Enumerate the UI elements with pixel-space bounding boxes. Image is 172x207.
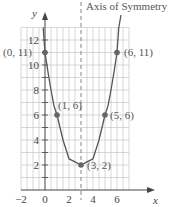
point-6-11 bbox=[114, 50, 120, 56]
label-point-6-11: (6, 11) bbox=[124, 46, 153, 59]
x-tick-0: 0 bbox=[42, 193, 48, 205]
y-tick-2: 2 bbox=[34, 159, 40, 171]
label-point-5-6: (5, 6) bbox=[110, 109, 134, 122]
y-tick-12: 12 bbox=[28, 34, 39, 46]
x-tick-6: 6 bbox=[114, 193, 120, 205]
point-3-2 bbox=[78, 162, 84, 168]
y-tick-10: 10 bbox=[28, 59, 40, 71]
x-axis bbox=[21, 187, 155, 193]
point-0-11 bbox=[42, 50, 48, 56]
label-point-0-11: (0, 11) bbox=[3, 46, 32, 59]
y-axis bbox=[42, 12, 48, 190]
y-tick-6: 6 bbox=[34, 109, 40, 121]
y-tick-8: 8 bbox=[34, 84, 40, 96]
parabola-chart: (0, 11) (1, 6) (3, 2) (5, 6) (6, 11) Axi… bbox=[0, 0, 172, 207]
point-1-6 bbox=[54, 112, 60, 118]
y-axis-label: y bbox=[31, 7, 37, 19]
axis-of-symmetry-label: Axis of Symmetry bbox=[86, 0, 168, 12]
y-tick-4: 4 bbox=[34, 134, 40, 146]
x-axis-label: x bbox=[152, 194, 158, 206]
label-point-1-6: (1, 6) bbox=[58, 99, 82, 112]
x-tick-4: 4 bbox=[90, 193, 96, 205]
x-tick-2: 2 bbox=[66, 193, 72, 205]
label-point-3-2: (3, 2) bbox=[87, 159, 111, 172]
point-5-6 bbox=[102, 112, 108, 118]
x-tick-minus-2: −2 bbox=[15, 193, 27, 205]
